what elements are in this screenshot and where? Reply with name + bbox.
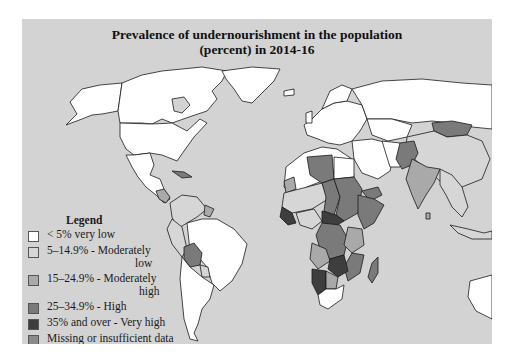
region-canada bbox=[118, 67, 227, 124]
legend-item-moderately-high: 15–24.9% - Moderately high bbox=[28, 272, 198, 298]
region-alaska bbox=[66, 83, 122, 125]
region-ethiopia-somalia bbox=[358, 195, 384, 229]
region-kenya-tanzania bbox=[344, 227, 364, 253]
legend-label: 25–34.9% - High bbox=[47, 300, 127, 312]
region-uk bbox=[306, 111, 312, 123]
legend-swatch-icon bbox=[28, 303, 39, 314]
legend-item-very-high: 35% and over - Very high bbox=[28, 316, 198, 330]
legend-swatch-icon bbox=[28, 275, 39, 286]
region-greenland bbox=[222, 67, 280, 103]
legend-label: 5–14.9% - Moderately bbox=[47, 244, 151, 256]
region-guatemala-honduras bbox=[156, 189, 170, 203]
region-egypt bbox=[334, 157, 354, 179]
legend-item-missing: Missing or insufficient data bbox=[28, 332, 198, 344]
legend-title: Legend bbox=[28, 214, 198, 226]
legend-item-moderately-low: 5–14.9% - Moderately low bbox=[28, 244, 198, 270]
legend-swatch-icon bbox=[28, 247, 39, 258]
legend-label: 15–24.9% - Moderately bbox=[47, 272, 157, 284]
map-panel: Prevalence of undernourishment in the po… bbox=[22, 19, 492, 344]
region-indonesia bbox=[450, 225, 492, 239]
legend-item-high: 25–34.9% - High bbox=[28, 300, 198, 314]
legend-label-cont: high bbox=[47, 285, 159, 298]
region-kazakhstan bbox=[367, 119, 412, 141]
legend-swatch-icon bbox=[28, 231, 39, 242]
legend-label: 35% and over - Very high bbox=[47, 316, 165, 328]
region-iceland bbox=[284, 89, 294, 96]
legend-swatch-icon bbox=[28, 335, 39, 344]
region-cuba-haiti bbox=[172, 171, 192, 178]
legend-label: < 5% very low bbox=[47, 228, 115, 240]
region-guyana bbox=[204, 205, 214, 217]
region-europe bbox=[304, 101, 367, 145]
legend-item-very-low: < 5% very low bbox=[28, 228, 198, 242]
region-sri-lanka bbox=[426, 213, 430, 219]
region-australia bbox=[468, 275, 492, 319]
legend-swatch-icon bbox=[28, 319, 39, 330]
region-madagascar bbox=[368, 257, 378, 283]
legend-label: Missing or insufficient data bbox=[47, 332, 174, 344]
map-legend: Legend < 5% very low 5–14.9% - Moderatel… bbox=[28, 214, 198, 344]
region-nigeria bbox=[296, 209, 322, 229]
legend-label-cont: low bbox=[47, 257, 152, 270]
